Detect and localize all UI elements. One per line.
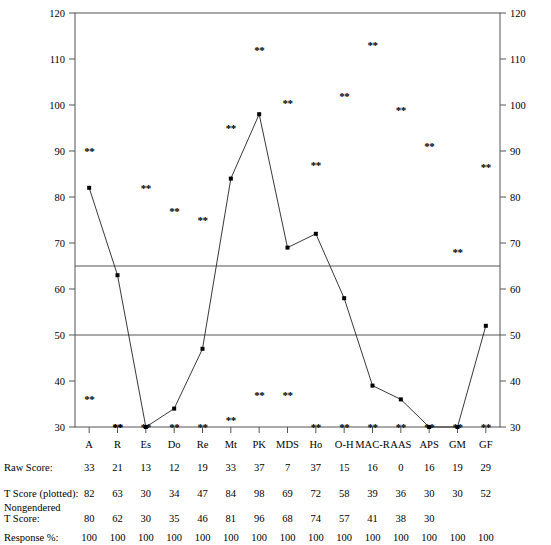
y-axis-label-left-90: 90 bbox=[55, 146, 66, 157]
table-cell-1-A: 82 bbox=[84, 488, 95, 499]
asterisk-marker-Do: ** bbox=[169, 205, 180, 217]
x-axis-label-Do: Do bbox=[168, 439, 181, 450]
x-axis-label-Es: Es bbox=[141, 439, 152, 450]
table-cell-0-Re: 19 bbox=[197, 462, 208, 473]
profile-polyline bbox=[89, 114, 486, 427]
table-cell-0-Mt: 33 bbox=[226, 462, 237, 473]
y-axis-label-right-90: 90 bbox=[510, 146, 521, 157]
y-axis-label-left-110: 110 bbox=[50, 54, 65, 65]
table-cell-1-Re: 47 bbox=[197, 488, 208, 499]
table-cell-3-A: 100 bbox=[81, 532, 97, 543]
table-cell-0-MDS: 7 bbox=[285, 462, 290, 473]
lower-asterisk-marker-Re: ** bbox=[198, 421, 209, 433]
table-cell-2-Re: 46 bbox=[197, 513, 208, 524]
asterisk-marker-A: ** bbox=[84, 145, 95, 157]
x-axis-label-PK: PK bbox=[252, 439, 266, 450]
x-axis-label-AAS: AAS bbox=[390, 439, 411, 450]
table-cell-3-Re: 100 bbox=[195, 532, 211, 543]
table-cell-1-R: 63 bbox=[112, 488, 123, 499]
x-axis-label-Re: Re bbox=[197, 439, 209, 450]
y-axis-label-right-40: 40 bbox=[510, 376, 521, 387]
table-cell-2-R: 62 bbox=[112, 513, 123, 524]
x-axis-label-A: A bbox=[85, 439, 93, 450]
asterisk-marker-Re: ** bbox=[198, 214, 209, 226]
table-cell-3-Es: 100 bbox=[138, 532, 154, 543]
y-axis-label-right-70: 70 bbox=[510, 238, 521, 249]
table-row-label-0: Raw Score: bbox=[4, 462, 53, 473]
lower-asterisk-marker-MAC-R: ** bbox=[368, 421, 379, 433]
table-cell-2-O-H: 57 bbox=[339, 513, 350, 524]
table-cell-2-Es: 30 bbox=[141, 513, 152, 524]
table-cell-1-GM: 30 bbox=[452, 488, 463, 499]
x-axis-label-APS: APS bbox=[420, 439, 439, 450]
table-cell-1-AAS: 36 bbox=[396, 488, 407, 499]
table-cell-3-O-H: 100 bbox=[336, 532, 352, 543]
table-cell-3-Do: 100 bbox=[166, 532, 182, 543]
x-axis-label-MAC-R: MAC-R bbox=[355, 439, 389, 450]
y-axis-label-left-60: 60 bbox=[55, 284, 66, 295]
plot-frame bbox=[75, 13, 500, 427]
data-point-MAC-R bbox=[371, 384, 375, 388]
x-axis-label-MDS: MDS bbox=[276, 439, 299, 450]
profile-chart-svg: 3030404050506060707080809090100100110110… bbox=[0, 0, 551, 545]
table-row-label-nongendered-line2: T Score: bbox=[4, 513, 40, 524]
table-row-label-1: T Score (plotted): bbox=[4, 488, 79, 500]
table-cell-2-MDS: 68 bbox=[282, 513, 293, 524]
table-cell-0-APS: 16 bbox=[424, 462, 435, 473]
y-axis-label-left-120: 120 bbox=[49, 8, 65, 19]
table-cell-1-APS: 30 bbox=[424, 488, 435, 499]
asterisk-marker-AAS: ** bbox=[396, 104, 407, 116]
table-cell-2-A: 80 bbox=[84, 513, 95, 524]
table-cell-1-O-H: 58 bbox=[339, 488, 350, 499]
x-axis-label-GF: GF bbox=[479, 439, 493, 450]
table-cell-1-Do: 34 bbox=[169, 488, 180, 499]
y-axis-label-left-100: 100 bbox=[49, 100, 65, 111]
lower-asterisk-marker-R: ** bbox=[113, 421, 124, 433]
lower-asterisk-marker-MDS: ** bbox=[283, 389, 294, 401]
table-cell-3-MAC-R: 100 bbox=[365, 532, 381, 543]
lower-asterisk-marker-A: ** bbox=[84, 393, 95, 405]
table-cell-2-AAS: 38 bbox=[396, 513, 407, 524]
asterisk-marker-Mt: ** bbox=[226, 122, 237, 134]
table-cell-3-GM: 100 bbox=[450, 532, 466, 543]
table-cell-1-MDS: 69 bbox=[282, 488, 293, 499]
y-axis-label-left-50: 50 bbox=[55, 330, 66, 341]
data-point-Mt bbox=[229, 177, 233, 181]
table-cell-0-GM: 19 bbox=[452, 462, 463, 473]
data-point-GM bbox=[456, 425, 460, 429]
table-cell-3-Ho: 100 bbox=[308, 532, 324, 543]
x-axis-label-R: R bbox=[114, 439, 121, 450]
table-cell-1-GF: 52 bbox=[481, 488, 492, 499]
table-cell-0-GF: 29 bbox=[481, 462, 492, 473]
table-cell-0-Es: 13 bbox=[141, 462, 152, 473]
x-axis-label-GM: GM bbox=[449, 439, 467, 450]
table-cell-0-AAS: 0 bbox=[398, 462, 403, 473]
x-axis-label-O-H: O-H bbox=[335, 439, 354, 450]
lower-asterisk-marker-AAS: ** bbox=[396, 421, 407, 433]
data-point-Re bbox=[201, 347, 205, 351]
table-cell-0-Ho: 37 bbox=[311, 462, 322, 473]
lower-asterisk-marker-Ho: ** bbox=[311, 421, 322, 433]
asterisk-marker-GF: ** bbox=[481, 161, 492, 173]
asterisk-marker-O-H: ** bbox=[339, 90, 350, 102]
y-axis-label-right-60: 60 bbox=[510, 284, 521, 295]
data-point-Es bbox=[144, 425, 148, 429]
asterisk-marker-Ho: ** bbox=[311, 159, 322, 171]
data-point-GF bbox=[484, 324, 488, 328]
data-point-A bbox=[87, 186, 91, 190]
y-axis-label-left-80: 80 bbox=[55, 192, 66, 203]
table-cell-0-R: 21 bbox=[112, 462, 123, 473]
table-cell-3-GF: 100 bbox=[478, 532, 494, 543]
table-cell-1-MAC-R: 39 bbox=[367, 488, 378, 499]
data-point-APS bbox=[427, 425, 431, 429]
lower-asterisk-marker-GF: ** bbox=[481, 421, 492, 433]
data-point-Ho bbox=[314, 232, 318, 236]
asterisk-marker-MDS: ** bbox=[283, 97, 294, 109]
data-point-R bbox=[116, 273, 120, 277]
table-cell-0-PK: 37 bbox=[254, 462, 265, 473]
table-cell-1-Es: 30 bbox=[141, 488, 152, 499]
lower-asterisk-marker-PK: ** bbox=[254, 389, 265, 401]
table-cell-2-APS: 30 bbox=[424, 513, 435, 524]
asterisk-marker-APS: ** bbox=[424, 140, 435, 152]
data-point-AAS bbox=[399, 397, 403, 401]
